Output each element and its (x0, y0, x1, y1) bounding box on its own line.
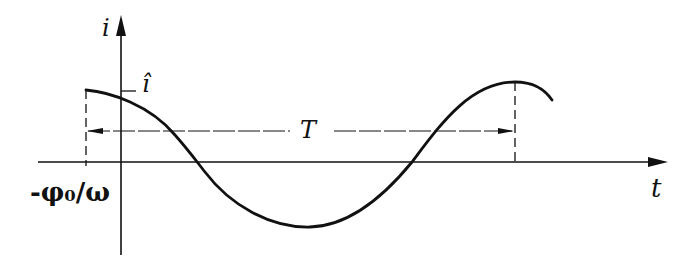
period-arrow-right-icon (498, 128, 514, 134)
t-axis-arrow-icon (648, 157, 668, 167)
period-label: T (300, 118, 316, 142)
phase-offset-label: -φ₀/ω (30, 179, 110, 205)
t-axis (38, 157, 668, 167)
current-waveform (86, 82, 552, 227)
i-axis-arrow-icon (116, 15, 126, 36)
i-axis (116, 15, 126, 255)
x-axis-label: t (651, 175, 661, 201)
period-arrow-left-icon (87, 128, 103, 134)
amplitude-label: î (142, 72, 150, 96)
y-axis-label: i (102, 16, 110, 40)
